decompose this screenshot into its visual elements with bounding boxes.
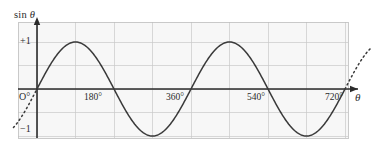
plot-panel-background [18,22,348,138]
x-tick-label-720: 720° [325,93,343,103]
y-axis-label-symbol: θ [30,9,35,20]
origin-label: O° [19,92,30,102]
y-axis-label-prefix: sin [14,9,27,20]
x-tick-label-360: 360° [166,93,184,103]
x-tick-label-540: 540° [247,93,265,103]
y-tick-label-plus-one: +1 [20,36,31,46]
x-axis-label: θ [355,92,360,103]
sine-wave-chart [0,0,371,146]
y-axis-label: sin θ [14,10,35,21]
x-tick-label-180: 180° [84,93,102,103]
y-tick-label-minus-one: −1 [20,124,31,134]
